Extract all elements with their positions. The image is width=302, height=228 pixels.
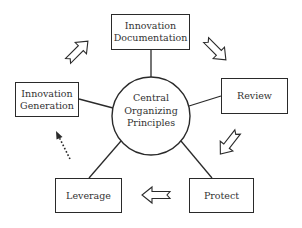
node-protect: Protect	[189, 178, 254, 213]
dotted-arrow-leverage-to-generation-icon	[56, 131, 70, 159]
node-leverage: Leverage	[55, 178, 122, 213]
node-label-line: Protect	[204, 190, 239, 202]
arrow-protect-to-leverage-icon	[142, 187, 170, 203]
node-innovation-documentation: Innovation Documentation	[111, 14, 190, 50]
node-label-line: Leverage	[66, 190, 111, 202]
node-label-line: Innovation	[20, 88, 74, 100]
node-label-line: Innovation	[114, 20, 188, 32]
arrow-review-to-protect-icon	[214, 127, 244, 159]
node-review: Review	[221, 78, 288, 114]
center-label-line: Central	[112, 92, 190, 105]
spoke-generation	[79, 99, 113, 108]
cycle-diagram: Innovation Documentation Review Protect …	[0, 0, 302, 228]
center-label-line: Organizing	[112, 105, 190, 118]
arrow-generation-to-documentation-icon	[62, 35, 93, 66]
node-label-line: Documentation	[114, 32, 188, 44]
node-innovation-generation: Innovation Generation	[15, 82, 79, 117]
center-label: Central Organizing Principles	[112, 92, 190, 130]
center-label-line: Principles	[112, 117, 190, 130]
spoke-leverage	[89, 141, 121, 178]
spoke-protect	[181, 141, 212, 178]
node-label-line: Generation	[20, 100, 74, 112]
spoke-review	[189, 96, 221, 106]
arrow-documentation-to-review-icon	[200, 34, 231, 65]
node-label-line: Review	[237, 90, 272, 102]
